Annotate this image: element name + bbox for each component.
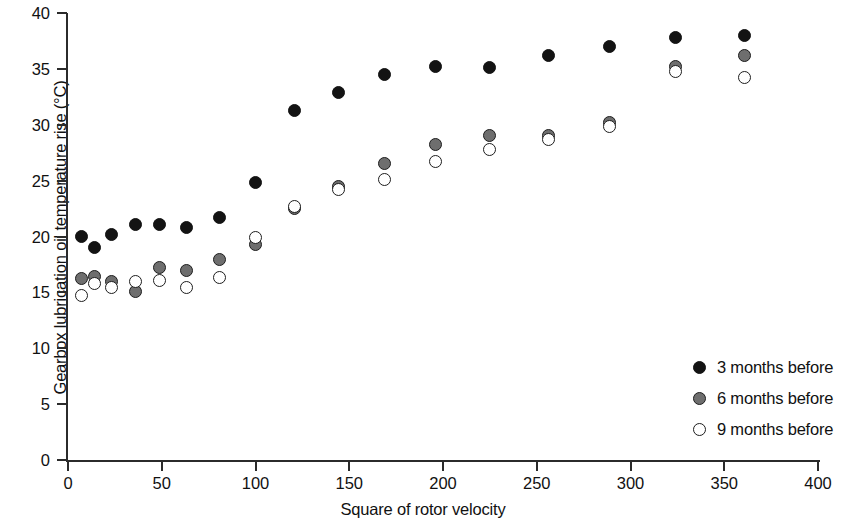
y-tick-label: 20 [6,227,50,246]
x-tick-label: 400 [788,474,846,493]
data-point [332,183,345,196]
legend-item[interactable]: 6 months before [693,383,833,414]
data-point [105,228,118,241]
x-tick-mark [67,461,69,471]
legend-label: 9 months before [717,420,833,439]
legend-marker-icon [693,392,706,405]
data-point [542,133,555,146]
x-tick-label: 350 [694,474,754,493]
legend-label: 6 months before [717,389,833,408]
legend-item[interactable]: 9 months before [693,414,833,445]
x-tick-label: 100 [226,474,286,493]
data-point [88,277,101,290]
data-point [75,289,88,302]
x-tick-label: 200 [413,474,473,493]
data-point [105,281,118,294]
y-tick-mark [57,68,67,70]
y-tick-mark [57,459,67,461]
data-point [180,221,193,234]
x-tick-label: 250 [507,474,567,493]
data-point [332,86,345,99]
x-tick-mark [723,461,725,471]
y-tick-label: 0 [6,451,50,470]
data-point [129,275,142,288]
x-tick-mark [161,461,163,471]
y-tick-label: 10 [6,339,50,358]
y-tick-mark [57,291,67,293]
x-tick-mark [630,461,632,471]
legend-label: 3 months before [717,358,833,377]
data-point [88,241,101,254]
legend-marker-icon [693,361,706,374]
y-tick-label: 5 [6,395,50,414]
data-point [180,264,193,277]
legend-item[interactable]: 3 months before [693,352,833,383]
data-point [153,274,166,287]
data-point [669,31,682,44]
x-tick-label: 300 [601,474,661,493]
scatter-chart-figure: Gearbox lubrication oil temperature rise… [0,0,846,527]
x-axis-label: Square of rotor velocity [0,500,846,519]
y-tick-mark [57,236,67,238]
legend-marker-icon [693,423,706,436]
y-tick-mark [57,347,67,349]
y-tick-label: 40 [6,4,50,23]
x-tick-label: 50 [132,474,192,493]
y-tick-mark [57,124,67,126]
x-tick-mark [348,461,350,471]
data-point [75,230,88,243]
y-tick-mark [57,403,67,405]
x-tick-mark [442,461,444,471]
data-point [542,49,555,62]
y-tick-label: 25 [6,171,50,190]
x-tick-label: 0 [38,474,98,493]
data-point [129,218,142,231]
data-point [669,65,682,78]
y-tick-label: 15 [6,283,50,302]
x-tick-label: 150 [319,474,379,493]
y-tick-label: 30 [6,115,50,134]
y-tick-mark [57,12,67,14]
x-tick-mark [255,461,257,471]
y-tick-mark [57,180,67,182]
y-tick-label: 35 [6,59,50,78]
x-tick-mark [536,461,538,471]
data-point [180,281,193,294]
x-tick-mark [817,461,819,471]
chart-legend: 3 months before6 months before9 months b… [693,352,833,445]
